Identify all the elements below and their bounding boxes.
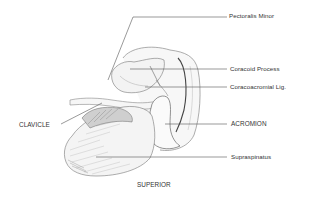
anatomy-diagram: Pectoralis Minor Coracoid Process Coraco… [0, 0, 315, 198]
label-clavicle: CLAVICLE [19, 122, 50, 128]
shoulder-illustration [0, 0, 315, 198]
label-coracoid-process: Coracoid Process [230, 66, 280, 72]
caption-superior-view: SUPERIOR [137, 182, 171, 188]
label-coracoacromial-lig: Coracoacromial Lig. [230, 84, 286, 90]
label-supraspinatus: Supraspinatus [231, 154, 271, 160]
label-pectoralis-minor: Pectoralis Minor [229, 13, 274, 19]
label-acromion: ACROMION [231, 121, 267, 127]
